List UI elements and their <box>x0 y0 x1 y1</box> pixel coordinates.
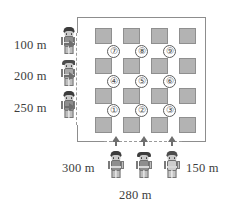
person-leg-split <box>143 170 144 178</box>
plot-square[interactable] <box>179 58 196 74</box>
plot-square[interactable] <box>151 88 168 104</box>
arrow-up-icon-2 <box>140 136 148 142</box>
person-arm-right <box>177 161 179 169</box>
person-eye-right <box>71 65 72 67</box>
person-belt <box>167 166 177 168</box>
person-leg-split <box>171 170 172 178</box>
distance-label-150m: 150 m <box>186 161 219 176</box>
person-belt <box>111 166 121 168</box>
person-leg-split <box>115 170 116 178</box>
node-5[interactable]: ⑤ <box>135 75 148 88</box>
distance-label-250m: 250 m <box>14 101 47 116</box>
person-belt <box>139 166 149 168</box>
person-bottom-3 <box>161 151 183 183</box>
plot-square[interactable] <box>179 117 196 133</box>
person-eye-right <box>174 157 175 159</box>
plot-square[interactable] <box>95 117 112 133</box>
distance-label-280m: 280 m <box>119 188 152 203</box>
boundary-left-dashed <box>76 33 77 125</box>
distance-label-200m: 200 m <box>14 69 47 84</box>
plot-square[interactable] <box>179 88 196 104</box>
person-eye-right <box>118 157 119 159</box>
person-eye-right <box>71 33 72 35</box>
person-leg-split <box>68 110 69 118</box>
plot-square[interactable] <box>151 58 168 74</box>
node-1[interactable]: ① <box>107 104 120 117</box>
plot-square[interactable] <box>123 28 140 44</box>
person-eye-right <box>146 157 147 159</box>
plot-square[interactable] <box>151 117 168 133</box>
person-arm-right <box>121 161 123 169</box>
node-9[interactable]: ⑨ <box>163 45 176 58</box>
plot-square[interactable] <box>179 28 196 44</box>
diagram-canvas: 100 m 200 m 250 m <box>0 0 236 211</box>
node-7[interactable]: ⑦ <box>107 45 120 58</box>
arrow-up-icon-1 <box>112 136 120 142</box>
node-4[interactable]: ④ <box>107 75 120 88</box>
plot-square[interactable] <box>123 117 140 133</box>
plot-square[interactable] <box>123 88 140 104</box>
person-arm-right <box>149 161 151 169</box>
plot-square[interactable] <box>95 88 112 104</box>
distance-label-100m: 100 m <box>14 38 47 53</box>
plot-square[interactable] <box>95 58 112 74</box>
person-eye-right <box>71 97 72 99</box>
node-3[interactable]: ③ <box>163 104 176 117</box>
node-6[interactable]: ⑥ <box>163 75 176 88</box>
person-bottom-2 <box>133 151 155 183</box>
plot-square[interactable] <box>95 28 112 44</box>
plot-square[interactable] <box>123 58 140 74</box>
node-2[interactable]: ② <box>135 104 148 117</box>
plot-square[interactable] <box>151 28 168 44</box>
person-bottom-1 <box>105 151 127 183</box>
distance-label-300m: 300 m <box>62 161 95 176</box>
node-8[interactable]: ⑧ <box>135 45 148 58</box>
arrow-up-icon-3 <box>168 136 176 142</box>
